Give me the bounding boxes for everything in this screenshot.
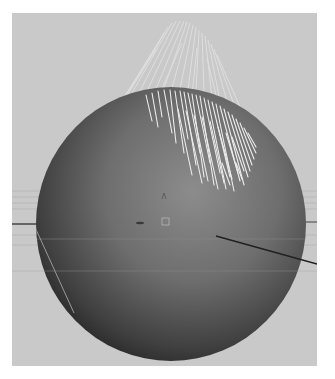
3d-viewport[interactable] (12, 13, 317, 366)
viewport-canvas[interactable] (12, 13, 317, 366)
pivot-marker-icon (136, 222, 144, 224)
page (0, 0, 335, 379)
